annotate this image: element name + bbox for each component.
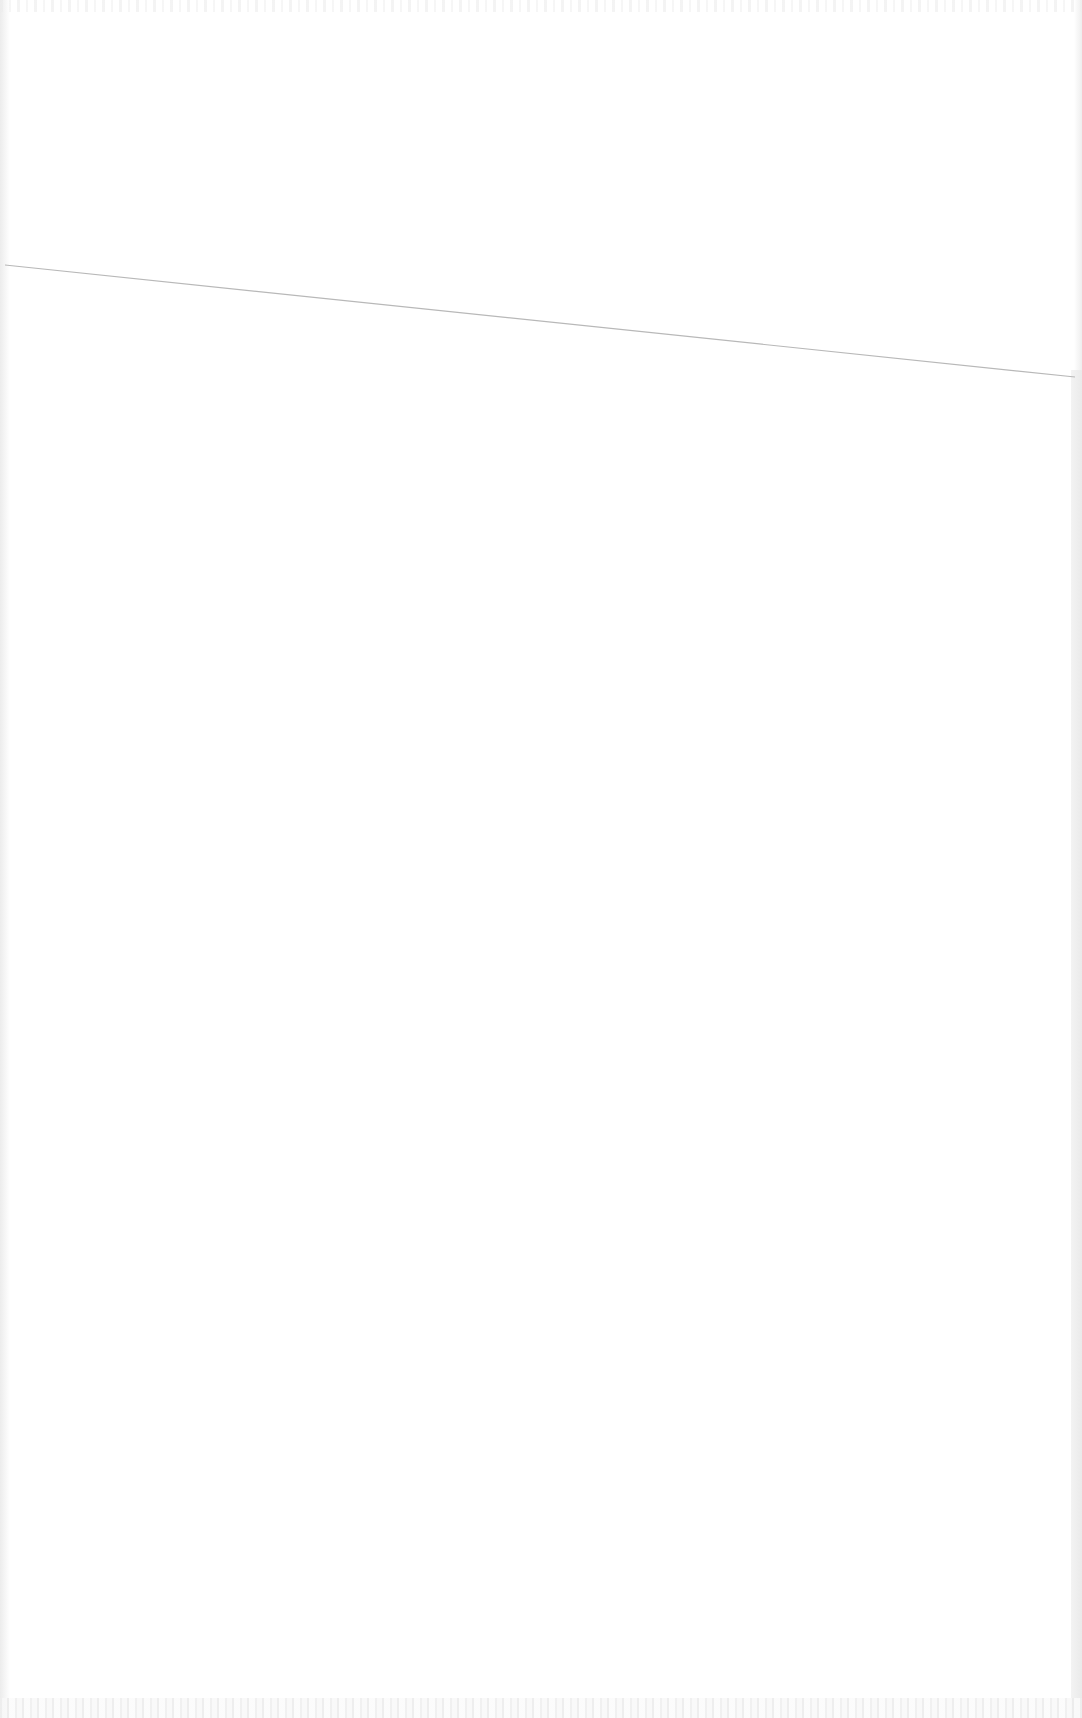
scan-bleed-through-bottom [0, 1698, 1082, 1718]
document-page [0, 0, 1082, 1718]
diagonal-rule-line [0, 0, 1082, 1718]
